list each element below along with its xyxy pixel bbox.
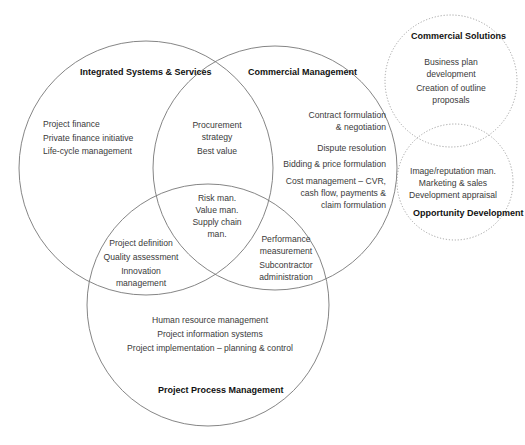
title-commercial-management: Commercial Management <box>248 66 328 78</box>
title-line: Integrated Systems & <box>80 67 172 77</box>
intersection-commercial-project: Performance measurement Subcontractor ad… <box>248 233 324 283</box>
title-line: Solutions <box>465 31 506 41</box>
item-human-resource-management: Human resource management <box>100 313 320 327</box>
item-development-appraisal: Development appraisal <box>398 189 508 201</box>
title-line: Commercial <box>411 31 463 41</box>
item-procurement-strategy: Procurement <box>172 119 262 131</box>
title-line: Services <box>175 67 212 77</box>
title-line: Management <box>302 67 357 77</box>
item-image-reputation: Image/reputation man. <box>398 165 508 177</box>
text-line: Cost management – CVR, <box>260 175 386 187</box>
item-bidding-price-formulation: Bidding & price formulation <box>260 158 386 170</box>
title-line: Development <box>467 208 524 218</box>
intersection-integrated-commercial: Procurement strategy Best value <box>172 119 262 157</box>
text-line: & negotiation <box>270 121 386 133</box>
item-subcontractor-administration: administration <box>248 271 324 283</box>
item-performance-measurement: Performance <box>248 233 324 245</box>
item-supply-chain-man: Supply chain <box>172 216 262 228</box>
item-project-information-systems: Project information systems <box>100 327 320 341</box>
text-line: cash flow, payments & <box>260 187 386 199</box>
item-contract-formulation: Contract formulation & negotiation <box>270 109 386 133</box>
item-creation-outline-proposals: Creation of outline <box>401 82 501 94</box>
intersection-integrated-project: Project definition Quality assessment In… <box>96 237 186 289</box>
items-project-process: Human resource management Project inform… <box>100 313 320 355</box>
item-creation-outline-proposals: proposals <box>401 94 501 106</box>
title-line: Opportunity <box>413 208 465 218</box>
title-project-process: Project Process Management <box>158 384 258 396</box>
item-life-cycle-management: Life-cycle management <box>43 145 133 159</box>
item-project-definition: Project definition <box>96 237 186 249</box>
items-commercial-solutions: Business plan development Creation of ou… <box>401 56 501 106</box>
title-line: Management <box>229 385 284 395</box>
title-integrated-systems: Integrated Systems & Services <box>80 66 210 78</box>
title-line: Commercial <box>248 67 300 77</box>
item-innovation-management: management <box>96 277 186 289</box>
item-performance-measurement: measurement <box>248 245 324 257</box>
text-line: Dispute resolution <box>270 142 386 154</box>
item-quality-assessment: Quality assessment <box>96 251 186 263</box>
item-dispute-resolution: Dispute resolution <box>270 142 386 154</box>
item-private-finance-initiative: Private finance initiative <box>43 132 133 146</box>
items-opportunity-development: Image/reputation man. Marketing & sales … <box>398 165 508 201</box>
item-procurement-strategy: strategy <box>172 131 262 143</box>
title-commercial-solutions: Commercial Solutions <box>411 30 491 42</box>
item-best-value: Best value <box>172 145 262 157</box>
title-opportunity-development: Opportunity Development <box>413 207 499 219</box>
item-risk-man: Risk man. <box>172 192 262 204</box>
text-line: claim formulation <box>260 199 386 211</box>
item-innovation-management: Innovation <box>96 265 186 277</box>
item-marketing-sales: Marketing & sales <box>398 177 508 189</box>
item-business-plan-development: Business plan <box>401 56 501 68</box>
text-line: Contract formulation <box>270 109 386 121</box>
item-business-plan-development: development <box>401 68 501 80</box>
items-integrated-systems: Project finance Private finance initiati… <box>43 118 133 159</box>
item-project-implementation: Project implementation – planning & cont… <box>100 341 320 355</box>
item-project-finance: Project finance <box>43 118 133 132</box>
title-line: Project Process <box>158 385 226 395</box>
item-cost-management: Cost management – CVR, cash flow, paymen… <box>260 175 386 211</box>
text-line: Bidding & price formulation <box>260 158 386 170</box>
item-value-man: Value man. <box>172 204 262 216</box>
item-subcontractor-administration: Subcontractor <box>248 259 324 271</box>
